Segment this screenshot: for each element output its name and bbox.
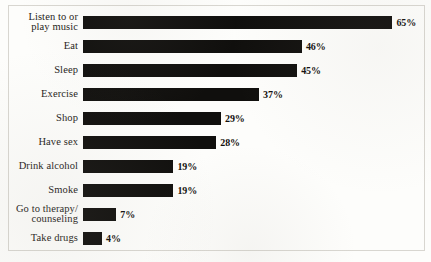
bar-fill bbox=[83, 88, 259, 101]
bar-fill bbox=[83, 136, 216, 149]
category-label: Shop bbox=[0, 113, 78, 124]
bar-track: 65% bbox=[83, 16, 416, 29]
bar-track: 45% bbox=[83, 64, 321, 77]
bar-row: Drink alcohol 19% bbox=[0, 154, 431, 178]
bar-value-label: 65% bbox=[396, 16, 416, 29]
bar-row: Smoke 19% bbox=[0, 178, 431, 202]
bar-value-label: 45% bbox=[301, 64, 321, 77]
bar-track: 7% bbox=[83, 208, 135, 221]
category-label: Take drugs bbox=[0, 233, 78, 244]
bar-value-label: 46% bbox=[306, 40, 326, 53]
bar-value-label: 28% bbox=[220, 136, 240, 149]
bar-value-label: 37% bbox=[263, 88, 283, 101]
category-label: Drink alcohol bbox=[0, 161, 78, 172]
bar-fill bbox=[83, 40, 302, 53]
bar-value-label: 29% bbox=[225, 112, 245, 125]
bar-track: 37% bbox=[83, 88, 283, 101]
bar-fill bbox=[83, 112, 221, 125]
category-label: Go to therapy/ counseling bbox=[0, 204, 78, 225]
bar-fill bbox=[83, 16, 392, 29]
bar-fill bbox=[83, 184, 173, 197]
bar-track: 19% bbox=[83, 184, 197, 197]
bar-fill bbox=[83, 232, 102, 245]
bar-track: 19% bbox=[83, 160, 197, 173]
bar-track: 46% bbox=[83, 40, 326, 53]
category-label: Have sex bbox=[0, 137, 78, 148]
bar-value-label: 7% bbox=[120, 208, 135, 221]
bar-chart-plot-area: Listen to or play music 65% Eat 46% Slee… bbox=[0, 0, 431, 262]
category-label: Listen to or play music bbox=[0, 12, 78, 33]
bar-row: Listen to or play music 65% bbox=[0, 10, 431, 34]
category-label: Exercise bbox=[0, 89, 78, 100]
bar-chart-figure: Listen to or play music 65% Eat 46% Slee… bbox=[0, 0, 431, 262]
category-label: Sleep bbox=[0, 65, 78, 76]
category-label: Smoke bbox=[0, 185, 78, 196]
bar-row: Have sex 28% bbox=[0, 130, 431, 154]
bar-value-label: 4% bbox=[106, 232, 121, 245]
bar-track: 28% bbox=[83, 136, 240, 149]
category-label: Eat bbox=[0, 41, 78, 52]
bar-fill bbox=[83, 160, 173, 173]
bar-row: Sleep 45% bbox=[0, 58, 431, 82]
bar-row: Eat 46% bbox=[0, 34, 431, 58]
bar-value-label: 19% bbox=[177, 160, 197, 173]
bar-track: 29% bbox=[83, 112, 245, 125]
bar-value-label: 19% bbox=[177, 184, 197, 197]
bar-row: Shop 29% bbox=[0, 106, 431, 130]
bar-row: Take drugs 4% bbox=[0, 226, 431, 250]
bar-track: 4% bbox=[83, 232, 121, 245]
bar-fill bbox=[83, 64, 297, 77]
bar-fill bbox=[83, 208, 116, 221]
bar-row: Go to therapy/ counseling 7% bbox=[0, 202, 431, 226]
bar-row: Exercise 37% bbox=[0, 82, 431, 106]
